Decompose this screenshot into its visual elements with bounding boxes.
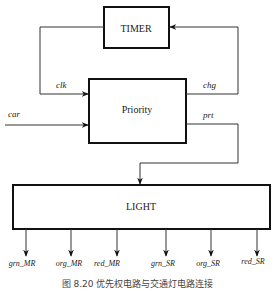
output-label: grn_SR bbox=[151, 259, 175, 268]
output-grn-sr: grn_SR bbox=[151, 229, 175, 268]
output-org-sr: org_SR bbox=[196, 229, 220, 268]
output-label: org_MR bbox=[56, 259, 82, 268]
output-red-mr: red_MR bbox=[94, 229, 120, 268]
prt-label: prt bbox=[202, 110, 214, 120]
car-connection: car bbox=[5, 109, 88, 125]
light-block: LIGHT bbox=[13, 185, 270, 229]
priority-label: Priority bbox=[122, 104, 153, 115]
car-label: car bbox=[8, 109, 20, 119]
output-label: grn_MR bbox=[9, 259, 36, 268]
clk-label: clk bbox=[56, 80, 67, 90]
output-grn-mr: grn_MR bbox=[9, 229, 36, 268]
priority-block: Priority bbox=[89, 79, 186, 143]
output-label: red_SR bbox=[241, 257, 264, 266]
timer-block: TIMER bbox=[104, 7, 169, 48]
output-org-mr: org_MR bbox=[56, 229, 82, 268]
block-diagram: TIMER Priority LIGHT clk chg car prt grn… bbox=[0, 0, 275, 291]
output-label: red_MR bbox=[94, 259, 120, 268]
light-label: LIGHT bbox=[126, 201, 156, 212]
figure-caption: 图 8.20 优先权电路与交通灯电路连接 bbox=[0, 277, 275, 290]
chg-label: chg bbox=[203, 80, 216, 90]
timer-label: TIMER bbox=[120, 23, 151, 34]
output-label: org_SR bbox=[196, 259, 220, 268]
output-red-sr: red_SR bbox=[241, 229, 264, 266]
